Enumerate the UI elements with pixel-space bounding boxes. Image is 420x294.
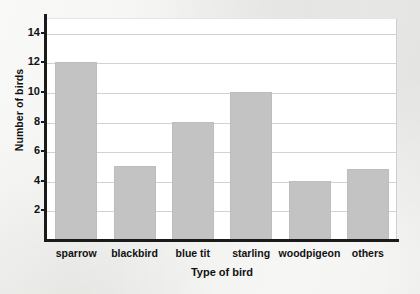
gridline xyxy=(47,123,396,124)
gridline xyxy=(47,34,396,35)
gridline xyxy=(47,63,396,64)
y-axis-tick-mark xyxy=(41,121,47,123)
gridline xyxy=(47,93,396,94)
x-axis-tick-label: others xyxy=(318,247,418,259)
gridline xyxy=(47,152,396,153)
bar-chart-figure: 2468101214 sparrowblackbirdblue titstarl… xyxy=(0,0,420,294)
gridline xyxy=(47,211,396,212)
gridline xyxy=(47,182,396,183)
y-axis-tick-mark xyxy=(41,209,47,211)
bar xyxy=(114,166,156,240)
y-axis-tick-mark xyxy=(41,91,47,93)
y-axis-tick-label: 2 xyxy=(16,204,40,215)
x-axis-line xyxy=(44,239,399,242)
bar xyxy=(230,92,272,240)
y-axis-tick-mark xyxy=(41,61,47,63)
bar xyxy=(55,62,97,240)
y-axis-line xyxy=(44,14,47,242)
plot-area xyxy=(47,18,397,240)
y-axis-title: Number of birds xyxy=(13,55,25,165)
bar xyxy=(289,181,331,240)
y-axis-tick-mark xyxy=(41,150,47,152)
y-axis-tick-mark xyxy=(41,180,47,182)
y-axis-tick-label: 14 xyxy=(16,27,40,38)
x-axis-title: Type of bird xyxy=(47,266,397,278)
y-axis-tick-label: 4 xyxy=(16,175,40,186)
bar xyxy=(347,169,389,240)
bar xyxy=(172,122,214,240)
y-axis-tick-mark xyxy=(41,32,47,34)
